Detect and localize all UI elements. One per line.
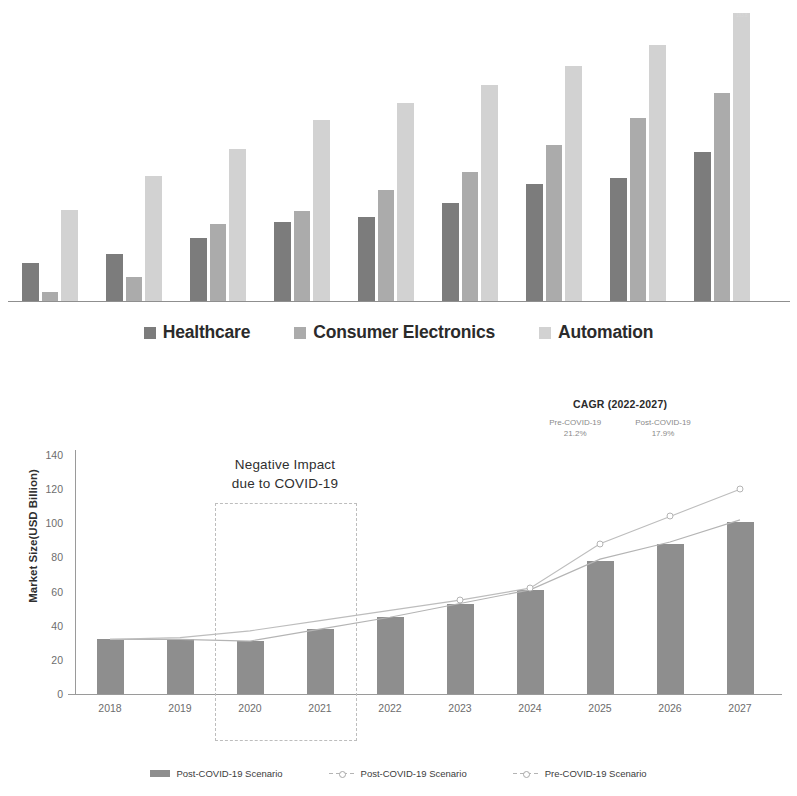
line-marker <box>457 597 464 604</box>
bar-group <box>22 1 78 301</box>
legend-label-automation: Automation <box>558 322 653 343</box>
top-chart-baseline <box>8 301 790 302</box>
bar-healthcare <box>358 217 375 301</box>
legend-swatch-post-covid-bar <box>150 770 170 777</box>
callout-line-1: Negative Impact <box>195 455 375 474</box>
bar-group <box>106 1 162 301</box>
bar-group <box>442 1 498 301</box>
x-axis-tick-2019: 2019 <box>145 702 215 714</box>
legend-item-pre-covid-line[interactable]: Pre-COVID-19 Scenario <box>513 768 647 779</box>
x-axis-tick-2018: 2018 <box>75 702 145 714</box>
bar-healthcare <box>610 178 627 301</box>
bar-consumer-electronics <box>378 190 395 301</box>
y-axis-tick: 140 <box>23 449 63 461</box>
bar-healthcare <box>694 152 711 301</box>
bar-healthcare <box>22 263 39 301</box>
bar-automation <box>649 45 666 301</box>
bar-healthcare <box>442 203 459 301</box>
bar-consumer-electronics <box>294 211 311 301</box>
market-size-combo-chart: Market Size(USD Billion) Negative Impact… <box>0 380 797 796</box>
legend-item-consumer-electronics[interactable]: Consumer Electronics <box>294 322 495 343</box>
bar-automation: 163.8 <box>733 13 750 301</box>
bar-automation <box>565 66 582 301</box>
legend-item-healthcare[interactable]: Healthcare <box>144 322 251 343</box>
y-axis-tick: 80 <box>23 551 63 563</box>
legend-swatch-pre-covid-line <box>513 770 539 777</box>
covid-impact-callout-text: Negative Impact due to COVID-19 <box>195 455 375 493</box>
bar-group <box>274 1 330 301</box>
x-axis-tick-2023: 2023 <box>425 702 495 714</box>
y-axis-label: Market Size(USD Billion) <box>27 431 39 641</box>
bar-automation <box>313 120 330 301</box>
cagr-pre-covid-value: 21.2% <box>549 428 601 439</box>
legend-swatch-healthcare <box>144 327 156 339</box>
y-axis-tick: 40 <box>23 620 63 632</box>
bar-consumer-electronics <box>462 172 479 301</box>
bar-group <box>358 1 414 301</box>
top-chart-plot-area: 163.8 <box>8 0 790 302</box>
legend-label-consumer-electronics: Consumer Electronics <box>313 322 495 343</box>
bar-automation <box>229 149 246 301</box>
top-chart-legend: Healthcare Consumer Electronics Automati… <box>0 322 797 343</box>
x-axis-line <box>68 694 782 695</box>
cagr-post-covid-label: Post-COVID-19 <box>635 417 691 428</box>
bar-automation <box>397 103 414 301</box>
bar-healthcare <box>190 238 207 301</box>
figure-root: 163.8 Healthcare Consumer Electronics Au… <box>0 0 797 796</box>
cagr-title: CAGR (2022-2027) <box>520 398 720 410</box>
x-axis-tick-2021: 2021 <box>285 702 355 714</box>
legend-item-post-covid-line[interactable]: Post-COVID-19 Scenario <box>329 768 467 779</box>
legend-swatch-automation <box>539 327 551 339</box>
bar-group: 163.8 <box>694 1 750 301</box>
line-pre-covid-19-scenario <box>110 489 740 639</box>
callout-line-2: due to COVID-19 <box>195 474 375 493</box>
legend-item-post-covid-bar[interactable]: Post-COVID-19 Scenario <box>150 768 282 779</box>
bar-automation <box>145 176 162 301</box>
y-axis-tick: 20 <box>23 654 63 666</box>
line-post-covid-19-scenario <box>110 520 740 641</box>
cagr-columns: Pre-COVID-19 21.2% Post-COVID-19 17.9% <box>520 417 720 439</box>
line-marker <box>737 486 744 493</box>
cagr-post-covid: Post-COVID-19 17.9% <box>635 417 691 439</box>
bar-group <box>190 1 246 301</box>
legend-label-pre-covid-line: Pre-COVID-19 Scenario <box>545 768 647 779</box>
bar-value-label: 163.8 <box>733 12 750 18</box>
y-axis-tick: 100 <box>23 517 63 529</box>
legend-item-automation[interactable]: Automation <box>539 322 653 343</box>
legend-label-post-covid-line: Post-COVID-19 Scenario <box>361 768 467 779</box>
legend-label-post-covid-bar: Post-COVID-19 Scenario <box>176 768 282 779</box>
bar-group <box>526 1 582 301</box>
line-marker <box>667 513 674 520</box>
x-axis-tick-2020: 2020 <box>215 702 285 714</box>
legend-swatch-consumer-electronics <box>294 327 306 339</box>
bar-automation <box>481 85 498 301</box>
bar-consumer-electronics <box>714 93 731 301</box>
line-marker <box>597 540 604 547</box>
bar-automation <box>61 210 78 301</box>
bar-consumer-electronics <box>42 292 59 301</box>
y-axis-tick: 60 <box>23 586 63 598</box>
bar-healthcare <box>106 254 123 301</box>
legend-label-healthcare: Healthcare <box>163 322 251 343</box>
bar-consumer-electronics <box>210 224 227 301</box>
cagr-post-covid-value: 17.9% <box>635 428 691 439</box>
bar-healthcare <box>526 184 543 301</box>
bar-consumer-electronics <box>126 277 143 301</box>
cagr-pre-covid-label: Pre-COVID-19 <box>549 417 601 428</box>
x-axis-tick-2026: 2026 <box>635 702 705 714</box>
bar-consumer-electronics <box>546 145 563 301</box>
cagr-pre-covid: Pre-COVID-19 21.2% <box>549 417 601 439</box>
grouped-bar-chart: 163.8 Healthcare Consumer Electronics Au… <box>0 0 797 360</box>
x-axis-tick-2022: 2022 <box>355 702 425 714</box>
bottom-chart-plot-area <box>75 455 775 694</box>
bar-group <box>610 1 666 301</box>
x-axis-tick-2025: 2025 <box>565 702 635 714</box>
line-series-layer <box>75 455 775 694</box>
bar-consumer-electronics <box>630 118 647 301</box>
y-axis-tick: 0 <box>23 688 63 700</box>
bar-healthcare <box>274 222 291 301</box>
line-marker <box>527 585 534 592</box>
legend-swatch-post-covid-line <box>329 770 355 777</box>
cagr-annotation: CAGR (2022-2027) Pre-COVID-19 21.2% Post… <box>520 398 720 439</box>
x-axis-tick-2024: 2024 <box>495 702 565 714</box>
